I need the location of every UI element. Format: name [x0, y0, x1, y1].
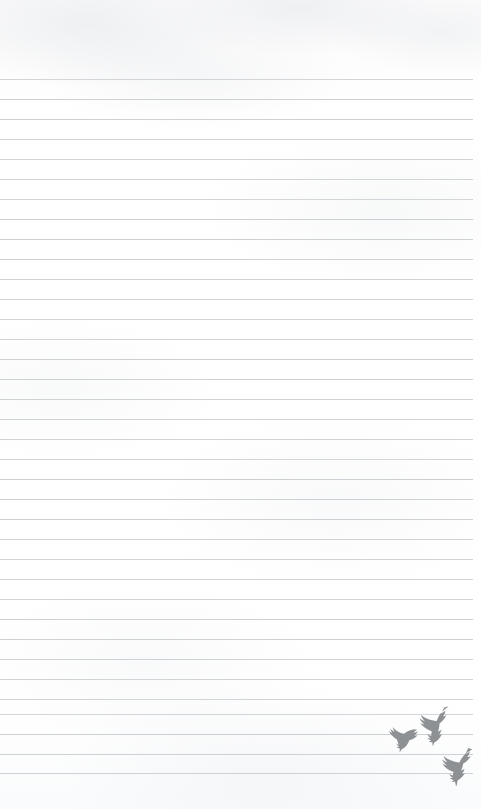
ruled-line	[0, 679, 473, 680]
bottom-blank-margin	[0, 774, 481, 809]
ruled-line	[0, 579, 473, 580]
ruled-line	[0, 259, 473, 260]
ruled-line	[0, 219, 473, 220]
ruled-line	[0, 299, 473, 300]
ruled-line	[0, 319, 473, 320]
ruled-line	[0, 239, 473, 240]
ruled-line	[0, 279, 473, 280]
ruled-line	[0, 619, 473, 620]
ruled-line	[0, 459, 473, 460]
ruled-line	[0, 179, 473, 180]
ruled-line	[0, 359, 473, 360]
ruled-line	[0, 399, 473, 400]
ruled-line	[0, 659, 473, 660]
ruled-line	[0, 519, 473, 520]
ruled-line	[0, 99, 473, 100]
ruled-line	[0, 199, 473, 200]
ruled-line	[0, 539, 473, 540]
ruled-line	[0, 559, 473, 560]
notepaper-page	[0, 0, 481, 809]
ruled-line	[0, 419, 473, 420]
ruled-lines-group	[0, 0, 481, 809]
ruled-line	[0, 79, 473, 80]
ruled-line	[0, 479, 473, 480]
ruled-line	[0, 639, 473, 640]
ruled-line	[0, 119, 473, 120]
ruled-line	[0, 439, 473, 440]
ruled-line	[0, 379, 473, 380]
ruled-line	[0, 159, 473, 160]
bird-middle-icon	[386, 726, 421, 755]
ruled-line	[0, 339, 473, 340]
ruled-line	[0, 599, 473, 600]
ruled-line	[0, 499, 473, 500]
ruled-line	[0, 139, 473, 140]
